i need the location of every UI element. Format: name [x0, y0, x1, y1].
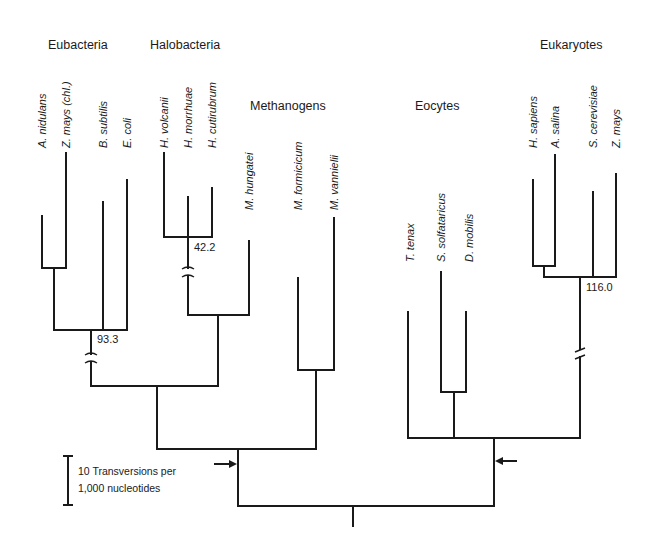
branch-eubacteria-cross — [54, 268, 127, 330]
arrowhead-right — [495, 457, 503, 465]
node-label-eukaryotes: 116.0 — [586, 281, 613, 293]
taxon-label: H. cutirubrum — [206, 82, 218, 148]
taxon-label: H. sapiens — [527, 96, 539, 148]
branch-halobacteria — [164, 153, 212, 237]
taxon-label: M. vannielii — [328, 155, 340, 210]
group-title-eubacteria: Eubacteria — [48, 38, 108, 52]
branch-m-formicicum-vannielii — [298, 218, 334, 370]
phylogenetic-tree — [0, 0, 656, 541]
branch-root — [238, 506, 494, 526]
taxon-label: B. subtilis — [97, 101, 109, 148]
break-mark-eukaryotes — [575, 348, 585, 359]
branch-a-nidulans-z-mays — [42, 153, 66, 268]
branch-eub-halo-stem — [157, 386, 316, 449]
scale-bar-label: 10 Transversions per 1,000 nucleotides — [78, 463, 176, 497]
arrowheads — [229, 457, 503, 468]
taxon-label: A. nidulans — [36, 94, 48, 148]
branch-h-sapiens-a-salina — [533, 155, 555, 266]
taxon-label: S. solfataricus — [435, 193, 447, 262]
taxon-label: T. tenax — [404, 223, 416, 262]
branch-t-tenax — [408, 312, 580, 438]
group-title-halobacteria: Halobacteria — [150, 38, 220, 52]
taxon-label: S. cerevisiae — [587, 85, 599, 148]
taxon-label: M. hungatei — [243, 153, 255, 210]
taxon-label: E. coli — [121, 118, 133, 148]
node-label-halobacteria: 42.2 — [194, 241, 215, 253]
arrowhead-left — [229, 460, 237, 468]
branch-s-solfataricus-d-mobilis — [441, 272, 466, 392]
scale-bar-label-line1: 10 Transversions per — [78, 463, 176, 480]
scale-bar — [64, 456, 72, 505]
taxon-label: Z. mays (chl.) — [60, 81, 72, 148]
group-title-eocytes: Eocytes — [415, 99, 459, 113]
scale-bar-label-line2: 1,000 nucleotides — [78, 480, 176, 497]
taxon-label: H. morrhuae — [182, 87, 194, 148]
taxon-label: Z. mays — [610, 109, 622, 148]
group-title-eukaryotes: Eukaryotes — [540, 38, 603, 52]
group-title-methanogens: Methanogens — [250, 99, 326, 113]
taxon-label: H. volcanii — [158, 97, 170, 148]
taxon-label: M. formicicum — [292, 142, 304, 210]
taxon-label: A. salina — [549, 106, 561, 148]
taxon-label: D. mobilis — [463, 214, 475, 262]
node-label-eubacteria: 93.3 — [97, 333, 118, 345]
